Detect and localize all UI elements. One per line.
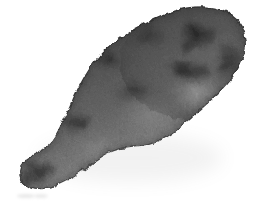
tuber-photograph (0, 0, 257, 208)
corner-smudge-text (17, 193, 51, 200)
photograph-canvas (0, 0, 257, 208)
